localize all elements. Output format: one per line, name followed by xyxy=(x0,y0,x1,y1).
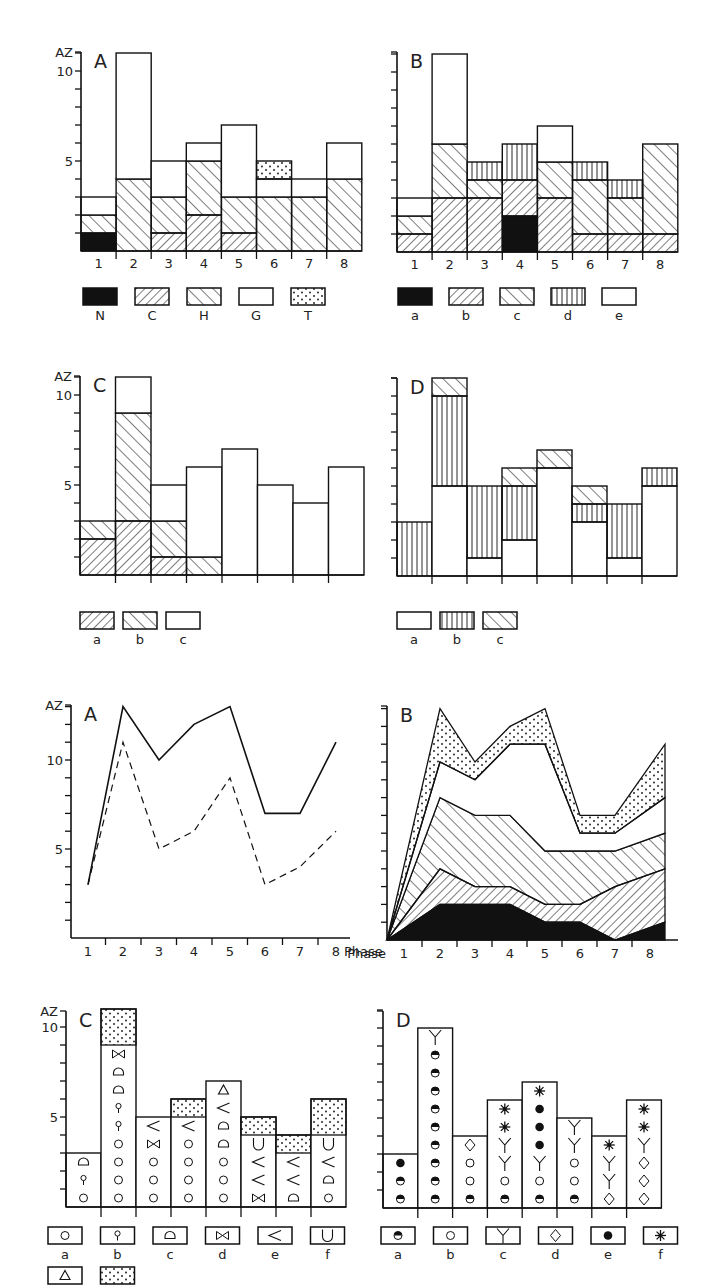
bar-segment-C xyxy=(186,215,221,251)
x-tick-label: 1 xyxy=(410,257,418,272)
bar-segment-a xyxy=(607,558,642,576)
legend-label: b xyxy=(136,632,144,647)
x-tick-label: 2 xyxy=(130,256,138,271)
asterisk-icon xyxy=(639,1104,650,1115)
legend-swatch xyxy=(101,1227,135,1244)
chart-row4-D xyxy=(383,1028,661,1218)
bar-segment-H xyxy=(292,197,327,251)
panel-label: A xyxy=(94,50,107,72)
x-tick-label: 8 xyxy=(332,944,340,959)
legend-swatch-H xyxy=(187,288,221,305)
chart-row3-A: 12345678Phase xyxy=(71,707,383,959)
bar-segment-G xyxy=(292,179,327,197)
x-tick-label: 8 xyxy=(656,257,664,272)
legend-swatch-a xyxy=(397,612,431,629)
filled-circle-icon xyxy=(535,1105,544,1114)
bar-segment-b xyxy=(537,198,572,252)
legend-label: f xyxy=(325,1247,330,1262)
bar-segment-b xyxy=(608,234,643,252)
bar-segment-d xyxy=(573,162,608,180)
legend-label: c xyxy=(179,632,186,647)
bar-segment-c xyxy=(608,198,643,234)
x-tick-label: 1 xyxy=(84,944,92,959)
panel-label: D xyxy=(396,1009,411,1031)
x-tick-label: 7 xyxy=(305,256,313,271)
legend-swatch-c xyxy=(500,288,534,305)
bar-segment-a xyxy=(432,486,467,576)
legend-row4-D: abcdef xyxy=(381,1227,678,1262)
legend-label: e xyxy=(271,1247,279,1262)
x-axis-label: Phase xyxy=(347,946,386,961)
legend-swatch-e xyxy=(602,288,636,305)
bar-segment-b xyxy=(432,396,467,486)
bar-segment-c xyxy=(573,180,608,234)
bar-segment-e xyxy=(397,198,432,216)
y-axis-label: AZ xyxy=(45,698,63,713)
legend-label: H xyxy=(199,308,209,323)
y-axis-label: AZ xyxy=(40,1004,58,1019)
x-tick-label: 3 xyxy=(471,946,479,961)
bar-segment-e xyxy=(537,126,572,162)
symbol-column xyxy=(627,1100,662,1208)
x-tick-label: 5 xyxy=(226,944,234,959)
panel-label: B xyxy=(410,50,423,72)
x-tick-label: 3 xyxy=(165,256,173,271)
bar-segment-c xyxy=(293,503,329,575)
asterisk-icon xyxy=(604,1140,615,1151)
legend-swatch-a xyxy=(80,612,114,629)
x-tick-label: 8 xyxy=(340,256,348,271)
bar-segment-G xyxy=(116,53,151,179)
bar-segment-d xyxy=(608,180,643,198)
legend-swatch-c xyxy=(166,612,200,629)
legend-label: a xyxy=(394,1247,402,1262)
legend-label: c xyxy=(499,1247,506,1262)
filled-circle-icon xyxy=(535,1123,544,1132)
x-tick-label: 5 xyxy=(235,256,243,271)
bar-segment-d xyxy=(502,144,537,180)
symbol-column xyxy=(487,1100,522,1208)
bar-segment-c xyxy=(258,485,294,575)
chart-row2-D xyxy=(397,378,677,584)
figure-canvas: 12345678105AZANCHGT12345678Babcde105AZCa… xyxy=(0,0,703,1288)
legend-label: c xyxy=(513,308,520,323)
bar-segment-G xyxy=(221,125,256,197)
legend-label: c xyxy=(166,1247,173,1262)
legend-swatch-b xyxy=(123,612,157,629)
legend-swatch xyxy=(48,1227,82,1244)
legend-swatch-G xyxy=(239,288,273,305)
y-tick-5: 5 xyxy=(55,842,63,857)
x-tick-label: 4 xyxy=(190,944,198,959)
filled-circle-icon xyxy=(396,1159,405,1168)
x-tick-label: 4 xyxy=(516,257,524,272)
x-tick-label: 1 xyxy=(400,946,408,961)
legend-label: f xyxy=(658,1247,663,1262)
bar-segment-b xyxy=(467,198,502,252)
bar-segment-a xyxy=(642,486,677,576)
bar-segment-c xyxy=(397,216,432,234)
x-tick-label: 4 xyxy=(200,256,208,271)
bar-segment-a xyxy=(116,521,152,575)
filled-circle-icon xyxy=(604,1231,613,1240)
bar-segment-c xyxy=(467,180,502,198)
legend-row2-C: abc xyxy=(80,612,200,647)
chart-row1-B: 12345678 xyxy=(397,54,678,272)
chart-row2-C xyxy=(80,377,364,583)
bar-segment-G xyxy=(81,197,116,215)
bar-segment-H xyxy=(257,197,292,251)
legend-row1-A: NCHGT xyxy=(83,288,325,323)
bar-segment-H xyxy=(221,197,256,233)
y-tick-5: 5 xyxy=(64,478,72,493)
dotted-cell xyxy=(241,1117,276,1135)
legend-label: G xyxy=(251,308,261,323)
legend-swatch-b xyxy=(449,288,483,305)
legend-label: a xyxy=(410,632,418,647)
bar-segment-b xyxy=(642,468,677,486)
bar-segment-a xyxy=(80,539,116,575)
legend-label: b xyxy=(113,1247,121,1262)
bar-segment-b xyxy=(573,234,608,252)
filled-circle-icon xyxy=(535,1141,544,1150)
y-tick-10: 10 xyxy=(55,388,72,403)
bar-segment-b xyxy=(502,180,537,216)
legend-swatch-N xyxy=(83,288,117,305)
legend-label: d xyxy=(218,1247,226,1262)
